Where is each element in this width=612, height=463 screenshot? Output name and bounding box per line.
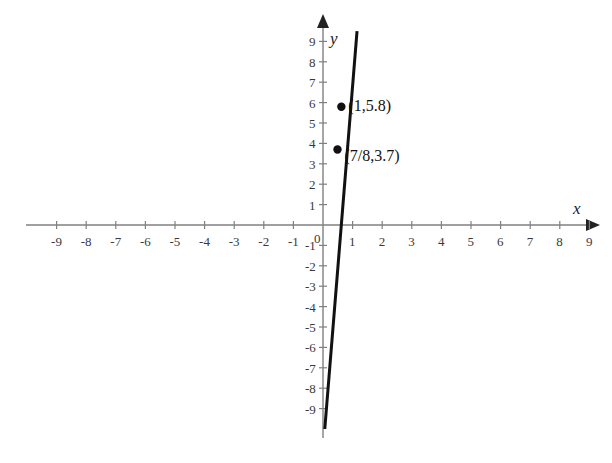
x-axis-tick-label: -9 xyxy=(51,235,62,248)
x-axis-tick-label: 3 xyxy=(408,235,415,248)
y-axis-tick-label: -4 xyxy=(305,301,316,314)
y-axis-tick-label: 8 xyxy=(309,56,316,69)
x-axis-tick-label: 5 xyxy=(468,235,475,248)
y-axis-tick-label: 4 xyxy=(309,137,316,150)
x-axis-tick-label: -5 xyxy=(170,235,181,248)
x-axis-tick-label: 7 xyxy=(527,235,534,248)
y-axis-tick-label: -6 xyxy=(305,341,316,354)
y-axis-label: y xyxy=(330,30,338,47)
y-axis-tick-label: -7 xyxy=(305,362,316,375)
y-axis-tick-label: -2 xyxy=(305,260,316,273)
x-axis-tick-label: 9 xyxy=(586,235,593,248)
x-axis-tick-label: 6 xyxy=(497,235,504,248)
plotted-line xyxy=(325,31,357,429)
x-axis-tick-label: -2 xyxy=(258,235,269,248)
y-axis-tick-label: 1 xyxy=(309,199,316,212)
x-axis-tick-label: -3 xyxy=(229,235,240,248)
x-axis-tick-label: -4 xyxy=(199,235,210,248)
x-axis-arrowhead xyxy=(586,219,600,231)
x-axis-tick-label: -6 xyxy=(140,235,151,248)
data-point-label: (7/8,3.7) xyxy=(345,148,400,164)
x-axis-label: x xyxy=(573,200,581,217)
y-axis-tick-label: 9 xyxy=(309,35,316,48)
data-point xyxy=(337,102,345,110)
y-axis-tick-label: -8 xyxy=(305,382,316,395)
x-axis-tick-label: -7 xyxy=(110,235,121,248)
y-axis-tick-label: 5 xyxy=(309,117,316,130)
x-axis-tick-label: 8 xyxy=(556,235,563,248)
y-axis-tick-label: -5 xyxy=(305,321,316,334)
y-axis-tick-label: 3 xyxy=(309,158,316,171)
y-axis-tick-label: 7 xyxy=(309,76,316,89)
data-point xyxy=(333,145,341,153)
x-axis-tick-label: 4 xyxy=(438,235,445,248)
y-axis-arrowhead xyxy=(317,14,329,28)
y-axis-tick-label: 2 xyxy=(309,178,316,191)
y-axis-tick-label: -9 xyxy=(305,403,316,416)
y-axis-tick-label: -3 xyxy=(305,280,316,293)
x-axis-tick-label: -1 xyxy=(288,235,299,248)
y-axis-tick-label: -1 xyxy=(305,239,316,252)
data-points-group xyxy=(333,102,345,153)
x-axis-tick-label: 1 xyxy=(349,235,356,248)
coordinate-plane-graph: -9-8-7-6-5-4-3-2-10123456789-9-8-7-6-5-4… xyxy=(0,0,612,463)
data-point-label: (1,5.8) xyxy=(348,98,391,114)
x-axis-tick-label: -8 xyxy=(81,235,92,248)
x-axis-tick-label: 2 xyxy=(379,235,386,248)
y-axis-tick-label: 6 xyxy=(309,97,316,110)
data-line-group xyxy=(325,31,357,429)
